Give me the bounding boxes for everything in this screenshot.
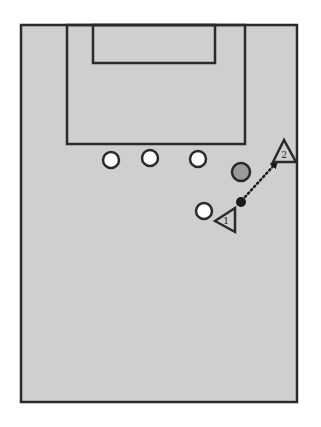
soccer-drill-diagram: 12 bbox=[0, 0, 321, 427]
defender-2-icon bbox=[142, 150, 158, 166]
defender-3-icon bbox=[190, 151, 206, 167]
defender-4-icon bbox=[196, 203, 212, 219]
attacker-label: 2 bbox=[281, 150, 287, 160]
field bbox=[21, 25, 297, 402]
neutral-player-icon bbox=[232, 163, 250, 181]
attacker-label: 1 bbox=[223, 216, 229, 226]
ball-icon bbox=[236, 197, 246, 207]
defender-1-icon bbox=[103, 152, 119, 168]
